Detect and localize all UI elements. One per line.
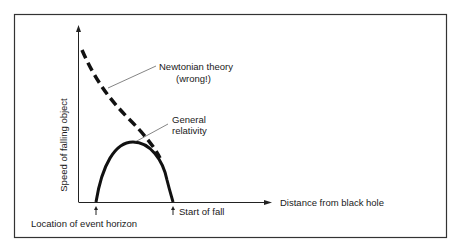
y-axis-arrow-icon: [76, 25, 81, 32]
x-axis-arrow-icon: [264, 200, 272, 205]
newton-label: Newtonian theory: [159, 61, 233, 72]
gr-label-2: relativity: [172, 125, 207, 136]
gr-label: General: [172, 114, 206, 125]
general-relativity-curve: [96, 142, 173, 202]
event-horizon-label: Location of event horizon: [31, 218, 137, 229]
start-fall-label: Start of fall: [179, 206, 224, 217]
newton-leader-line: [108, 66, 156, 88]
newtonian-curve: [82, 50, 160, 158]
x-axis-label: Distance from black hole: [280, 197, 384, 208]
y-axis-label: Speed of falling object: [58, 98, 69, 192]
diagram: Speed of falling object Distance from bl…: [0, 0, 456, 249]
newton-label-2: (wrong!): [176, 73, 211, 84]
